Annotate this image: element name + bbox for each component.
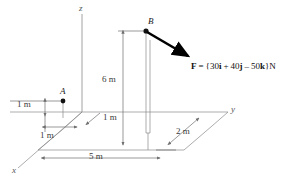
dimension-1m-y [88, 113, 100, 123]
base-far-edge [212, 112, 228, 126]
force-equals: = [199, 61, 204, 71]
force-plus: + [223, 61, 228, 71]
dimension-label-a-offset-y: 1 m [40, 131, 54, 140]
point-b-label: B [148, 17, 154, 26]
dim-1m-y-line [88, 113, 100, 123]
force-i-value: 30 [210, 61, 219, 71]
force-diagram-figure: z y x A B 1 m 1 m 1 m 6 m 5 m 2 m F={30i… [0, 0, 289, 183]
z-axis-label: z [79, 4, 83, 13]
force-i-unit: i [219, 61, 222, 71]
force-vector-arrow [147, 32, 188, 56]
force-minus: – [245, 61, 250, 71]
dimension-label-base-length: 5 m [89, 152, 103, 161]
dimension-label-base-depth: 2 m [176, 127, 190, 136]
force-j-value: 40 [231, 61, 240, 71]
force-equation: F={30i+40j–50k}N [191, 62, 276, 71]
point-a-label: A [60, 87, 66, 96]
x-axis-label: x [12, 166, 16, 175]
ground-plane-lines [10, 112, 228, 168]
point-a-dot [61, 99, 66, 104]
force-units: N [269, 61, 276, 71]
b-vertical-post [146, 31, 150, 133]
diagram-canvas [0, 0, 289, 183]
force-arrow-shaft [147, 32, 188, 56]
dimension-label-b-height: 6 m [102, 75, 116, 84]
dimension-label-a-offset-x: 1 m [103, 113, 117, 122]
y-axis-label: y [231, 105, 235, 114]
force-k-value: 50 [251, 61, 260, 71]
force-symbol: F [191, 61, 197, 71]
force-j-unit: j [240, 61, 243, 71]
point-a-group [61, 99, 66, 118]
dimension-6m [118, 31, 144, 145]
dimension-label-a-height: 1 m [17, 100, 31, 109]
